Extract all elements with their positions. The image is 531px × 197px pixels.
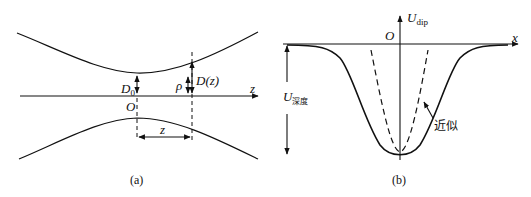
beam-radius-label: D(z) bbox=[195, 73, 219, 88]
panel-a: D0 O ρ D(z) z z (a) bbox=[17, 32, 258, 187]
origin-label: O bbox=[126, 99, 136, 114]
approx-pointer bbox=[424, 102, 433, 118]
z-axis-label: z bbox=[249, 81, 255, 96]
panel-b: Udip O x U深度 近似 (b) bbox=[283, 10, 518, 187]
y-axis-label: Udip bbox=[407, 10, 428, 27]
potential-well-curve bbox=[287, 45, 508, 155]
figure: D0 O ρ D(z) z z (a) Udip O x U深度 近似 (b) bbox=[0, 0, 531, 197]
beam-lower-envelope bbox=[19, 118, 258, 159]
approx-label: 近似 bbox=[434, 119, 458, 133]
origin-label-b: O bbox=[385, 28, 395, 43]
x-axis-label: x bbox=[511, 30, 518, 45]
beam-upper-envelope bbox=[17, 32, 258, 73]
radius-label: ρ bbox=[175, 78, 182, 93]
depth-label: U深度 bbox=[283, 89, 308, 106]
waist-label: D0 bbox=[120, 81, 135, 98]
caption-b: (b) bbox=[392, 173, 406, 187]
caption-a: (a) bbox=[130, 173, 143, 187]
distance-label: z bbox=[159, 122, 165, 137]
